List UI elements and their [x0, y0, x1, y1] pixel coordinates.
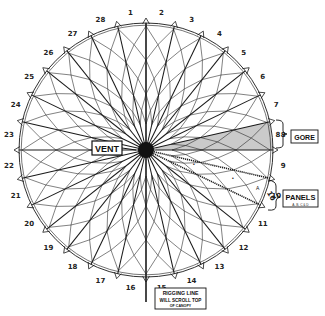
radial-seam — [32, 150, 146, 205]
gore-number-1: 1 — [128, 9, 133, 17]
gore-number-3: 3 — [189, 16, 194, 24]
gore-number-20: 20 — [24, 220, 34, 228]
gore-number-23: 23 — [4, 131, 14, 139]
panel-mark-1: • — [193, 161, 195, 167]
gore-number-7: 7 — [274, 101, 279, 109]
radial-seam — [146, 150, 260, 205]
gore-number-16: 16 — [126, 284, 136, 292]
panel-seam — [152, 175, 181, 271]
gore-number-9: 9 — [281, 162, 286, 170]
rigging-line-text-1: RIGGING LINE — [163, 290, 199, 296]
gore-number-2: 2 — [159, 9, 164, 17]
panel-seam — [25, 156, 121, 185]
radial-seam — [91, 150, 146, 264]
panel-mark-2: • — [232, 175, 234, 181]
gore-bracket-number: 8 — [276, 131, 281, 139]
parachute-canopy-diagram: 1234567891011121314151617181920212223242… — [0, 0, 325, 316]
panel-seam — [172, 150, 270, 162]
gore-number-26: 26 — [44, 49, 54, 57]
gore-number-4: 4 — [217, 30, 222, 38]
gore-number-25: 25 — [24, 73, 34, 81]
gore-number-24: 24 — [11, 101, 21, 109]
radial-seam — [32, 95, 146, 150]
radial-seam — [91, 36, 146, 150]
panel-seam — [171, 156, 267, 185]
gore-number-14: 14 — [187, 277, 197, 285]
panel-seam — [134, 26, 146, 124]
gore-number-22: 22 — [4, 162, 14, 170]
panels-label: PANELS — [286, 193, 316, 202]
panel-seam — [152, 29, 181, 125]
panel-seam — [25, 115, 121, 144]
vent-label: VENT — [95, 144, 120, 154]
gore-number-18: 18 — [68, 263, 78, 271]
gore-number-6: 6 — [260, 73, 265, 81]
panels-sublabel: A, B, C & D — [292, 203, 309, 207]
radial-seam-lines — [19, 23, 273, 302]
gore-number-5: 5 — [241, 49, 246, 57]
gore-number-27: 27 — [68, 30, 78, 38]
radial-seam — [146, 36, 201, 150]
vent-callout: VENT — [92, 141, 136, 155]
panel-mark-a: A — [256, 185, 260, 191]
gore-number-12: 12 — [239, 244, 249, 252]
panel-seam — [134, 176, 146, 274]
gore-number-28: 28 — [96, 16, 106, 24]
radial-seam — [146, 150, 201, 264]
rigging-line-text-3: OF CANOPY — [170, 304, 192, 308]
panel-seam — [146, 176, 158, 274]
gore-number-13: 13 — [215, 263, 225, 271]
gore-number-11: 11 — [258, 220, 268, 228]
gore-number-21: 21 — [11, 192, 21, 200]
panel-seam — [111, 29, 140, 125]
gore-number-17: 17 — [96, 277, 106, 285]
vent-hub — [138, 142, 154, 158]
panel-seam — [146, 26, 158, 124]
rigging-line-text-2: WILL SCROLL TOP — [160, 298, 202, 303]
gore-label: GORE — [294, 134, 315, 141]
panel-seam — [111, 175, 140, 271]
rigging-line-callout: RIGGING LINE WILL SCROLL TOP OF CANOPY — [155, 288, 206, 309]
gore-number-19: 19 — [44, 244, 54, 252]
